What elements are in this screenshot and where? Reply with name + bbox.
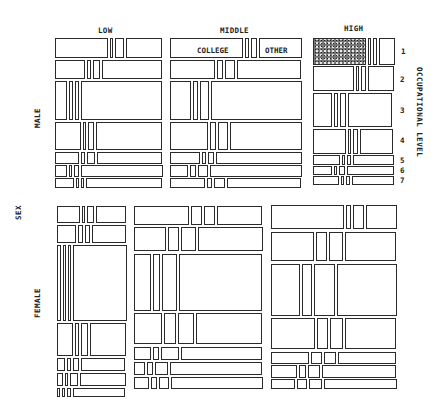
mosaic-tile-male-high-level6-other xyxy=(347,166,394,175)
mosaic-tile-female-middle-level5-e2 xyxy=(153,347,159,360)
mosaic-tile-female-high-level1-e2 xyxy=(346,205,351,229)
mosaic-tile-male-low-level6-e3 xyxy=(74,165,79,177)
mosaic-tile-male-high-level7-e2 xyxy=(341,176,344,185)
mosaic-tile-male-low-level1-other xyxy=(126,38,162,58)
mosaic-tile-female-low-level4-e2 xyxy=(75,323,79,356)
mosaic-tile-male-high-level7-e3 xyxy=(346,176,350,185)
mosaic-tile-male-high-level5-e3 xyxy=(347,155,351,165)
college-annotation: COLLEGE xyxy=(197,46,229,55)
mosaic-tile-female-middle-level2-other xyxy=(198,227,263,251)
mosaic-tile-male-middle-level7-college xyxy=(170,178,205,188)
mosaic-tile-male-high-level2-other xyxy=(368,66,394,91)
mosaic-tile-male-low-level6-e2 xyxy=(69,165,72,177)
mosaic-tile-male-low-level2-college xyxy=(55,60,85,79)
row-label-female: FEMALE xyxy=(33,288,42,318)
mosaic-tile-male-middle-level5-e2 xyxy=(202,152,206,164)
mosaic-tile-female-middle-level2-e2 xyxy=(168,227,179,251)
mosaic-tile-male-low-level3-e3 xyxy=(75,81,79,120)
mosaic-tile-female-low-level2-e2 xyxy=(78,225,83,243)
mosaic-tile-male-middle-level4-e2 xyxy=(210,122,216,150)
mosaic-tile-female-low-level5-other xyxy=(81,358,125,371)
mosaic-tile-female-middle-level1-e3 xyxy=(204,206,215,225)
mosaic-tile-male-low-level6-college xyxy=(55,165,67,177)
mosaic-tile-male-middle-level3-other xyxy=(211,81,302,120)
mosaic-tile-female-high-level2-college xyxy=(271,232,314,261)
mosaic-tile-female-low-level1-college xyxy=(57,206,80,223)
mosaic-tile-male-middle-level6-e2 xyxy=(190,165,196,177)
level-tick-7: 7 xyxy=(400,176,405,185)
mosaic-tile-female-middle-level2-e3 xyxy=(181,227,196,251)
mosaic-tile-male-high-level3-e3 xyxy=(340,93,346,127)
mosaic-tile-female-middle-level5-other xyxy=(181,347,262,360)
mosaic-tile-female-low-level6-other xyxy=(80,373,126,386)
mosaic-tile-female-middle-level3-e3 xyxy=(162,254,177,311)
mosaic-plot: LOW MIDDLE HIGH MALE SEX FEMALE OCCUPATI… xyxy=(0,0,436,409)
column-label-middle: MIDDLE xyxy=(220,26,249,35)
mosaic-tile-female-low-level7-other xyxy=(73,388,125,397)
mosaic-tile-female-high-level3-other xyxy=(337,264,397,316)
mosaic-tile-male-high-level6-college xyxy=(313,166,332,175)
mosaic-tile-female-high-level3-e2 xyxy=(302,264,312,316)
mosaic-tile-male-high-level3-other xyxy=(348,93,392,127)
level-tick-2: 2 xyxy=(400,75,405,84)
mosaic-tile-female-low-level3-college xyxy=(57,245,61,321)
mosaic-tile-male-high-level5-other xyxy=(353,155,394,165)
mosaic-tile-male-high-level1-e3 xyxy=(373,38,377,65)
mosaic-tile-female-high-level4-college xyxy=(271,318,315,349)
column-label-high: HIGH xyxy=(344,24,363,33)
mosaic-tile-female-middle-level1-other xyxy=(217,206,262,225)
mosaic-tile-male-high-level1-other xyxy=(379,38,395,65)
mosaic-tile-male-middle-level6-e3 xyxy=(198,165,208,177)
mosaic-tile-female-high-level7-college xyxy=(271,379,295,389)
mosaic-tile-female-low-level3-e2 xyxy=(63,245,66,321)
mosaic-tile-female-middle-level6-other xyxy=(170,362,262,375)
column-label-low: LOW xyxy=(98,26,112,35)
mosaic-tile-female-middle-level2-college xyxy=(134,227,166,251)
mosaic-tile-male-low-level1-e3 xyxy=(115,38,124,58)
mosaic-tile-male-low-level4-e2 xyxy=(83,122,86,150)
mosaic-tile-female-middle-level6-college xyxy=(134,362,145,375)
mosaic-tile-female-middle-level7-college xyxy=(134,377,149,389)
axis-label-occupational-level: OCCUPATIONAL LEVEL xyxy=(415,67,424,157)
mosaic-tile-female-high-level2-e2 xyxy=(316,232,327,261)
mosaic-tile-male-high-level3-college xyxy=(313,93,332,127)
mosaic-tile-female-low-level3-other xyxy=(73,245,127,321)
mosaic-tile-female-low-level2-college xyxy=(57,225,76,243)
mosaic-tile-male-low-level2-other xyxy=(102,60,162,79)
mosaic-tile-female-low-level4-other xyxy=(90,323,126,356)
level-tick-6: 6 xyxy=(400,166,405,175)
mosaic-tile-male-low-level7-e2 xyxy=(76,178,79,188)
mosaic-tile-female-high-level7-e2 xyxy=(297,379,307,389)
mosaic-tile-male-high-level6-e2 xyxy=(334,166,337,175)
mosaic-tile-female-high-level5-e3 xyxy=(324,352,336,364)
mosaic-tile-female-low-level7-e2 xyxy=(62,388,65,397)
mosaic-tile-female-low-level5-e3 xyxy=(73,358,79,371)
mosaic-tile-female-middle-level3-college xyxy=(134,254,151,311)
mosaic-tile-male-middle-level5-other xyxy=(216,152,302,164)
mosaic-tile-female-low-level2-other xyxy=(92,225,126,243)
mosaic-tile-male-low-level5-e2 xyxy=(81,152,85,164)
mosaic-tile-female-high-level2-other xyxy=(345,232,396,261)
mosaic-tile-male-middle-level1-e3 xyxy=(251,38,257,58)
mosaic-tile-female-low-level1-other xyxy=(96,206,126,223)
mosaic-tile-female-middle-level3-e2 xyxy=(153,254,160,311)
mosaic-tile-male-high-level5-e2 xyxy=(342,155,345,165)
mosaic-tile-female-high-level5-e2 xyxy=(311,352,322,364)
mosaic-tile-male-low-level7-college xyxy=(55,178,74,188)
mosaic-tile-male-low-level5-other xyxy=(97,152,162,164)
mosaic-tile-male-low-level3-college xyxy=(55,81,67,120)
level-tick-4: 4 xyxy=(400,136,405,145)
mosaic-tile-female-low-level4-college xyxy=(57,323,73,356)
mosaic-tile-female-middle-level6-e2 xyxy=(147,362,153,375)
mosaic-tile-male-middle-level7-e2 xyxy=(207,178,212,188)
mosaic-tile-female-middle-level4-college xyxy=(134,313,162,344)
mosaic-tile-male-middle-level2-college xyxy=(170,60,215,79)
mosaic-tile-male-high-level4-e2 xyxy=(348,129,351,154)
mosaic-tile-female-low-level1-e3 xyxy=(87,206,94,223)
mosaic-tile-male-high-level2-e3 xyxy=(361,66,366,91)
row-label-male: MALE xyxy=(33,108,42,128)
mosaic-tile-female-middle-level4-e2 xyxy=(164,313,176,344)
mosaic-tile-female-middle-level3-other xyxy=(179,254,262,311)
mosaic-tile-female-low-level3-e3 xyxy=(68,245,71,321)
mosaic-tile-female-high-level6-e3 xyxy=(308,365,320,378)
